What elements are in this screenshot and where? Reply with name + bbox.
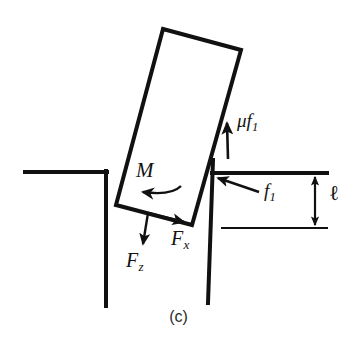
normal-force-arrow bbox=[218, 178, 259, 192]
figure-container: M μf1 f1 ℓ Fz Fx (c) bbox=[0, 0, 357, 348]
force-x-label: Fx bbox=[171, 228, 189, 251]
friction-force-arrow bbox=[227, 123, 228, 159]
figure-caption: (c) bbox=[0, 308, 357, 326]
depth-label: ℓ bbox=[329, 183, 339, 204]
tilted-rectangular-block bbox=[116, 29, 241, 225]
moment-label: M bbox=[136, 160, 154, 181]
friction-force-label: μf1 bbox=[237, 111, 258, 133]
normal-force-label: f1 bbox=[264, 181, 276, 203]
right-step-wall bbox=[208, 160, 213, 303]
diagram-canvas bbox=[0, 0, 357, 348]
force-z-arrow bbox=[143, 213, 148, 244]
left-step-surface bbox=[25, 171, 107, 306]
force-z-label: Fz bbox=[126, 250, 144, 273]
